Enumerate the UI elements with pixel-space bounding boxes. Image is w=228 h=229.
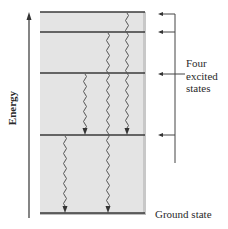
level-panel: [40, 12, 146, 215]
energy-level-diagram: Energy Four excited states Ground state: [0, 0, 228, 229]
excited-label-line2: excited: [186, 70, 218, 83]
energy-axis-label: Energy: [6, 73, 18, 143]
bracket-arrowheads: [158, 12, 163, 137]
arrow-left-icon: [158, 12, 163, 16]
arrow-left-icon: [158, 133, 163, 137]
excited-states-bracket: [160, 14, 185, 163]
arrow-left-icon: [158, 30, 163, 34]
energy-axis-arrow: [27, 12, 32, 218]
excited-label-line3: states: [186, 82, 218, 95]
energy-level-graphic: [0, 0, 228, 229]
excited-states-label: Four excited states: [186, 57, 218, 95]
arrow-left-icon: [158, 72, 163, 76]
excited-label-line1: Four: [186, 57, 218, 70]
ground-state-label: Ground state: [155, 208, 212, 221]
